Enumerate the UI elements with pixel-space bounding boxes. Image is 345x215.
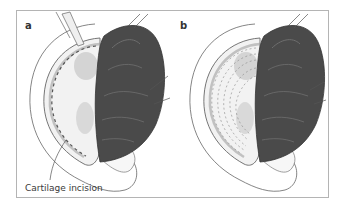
panel-a-concha-shadow bbox=[74, 52, 98, 80]
panel-a-drawing bbox=[30, 12, 170, 191]
panel-b-label: b bbox=[180, 20, 187, 31]
panel-a-skin-flap bbox=[95, 25, 164, 162]
cartilage-incision-caption: Cartilage incision bbox=[25, 183, 103, 193]
panel-b-drawing bbox=[190, 14, 326, 191]
panel-a-label: a bbox=[25, 20, 32, 31]
panel-a-antihelix-shadow bbox=[76, 102, 94, 134]
panel-b-skin-flap bbox=[255, 25, 324, 162]
